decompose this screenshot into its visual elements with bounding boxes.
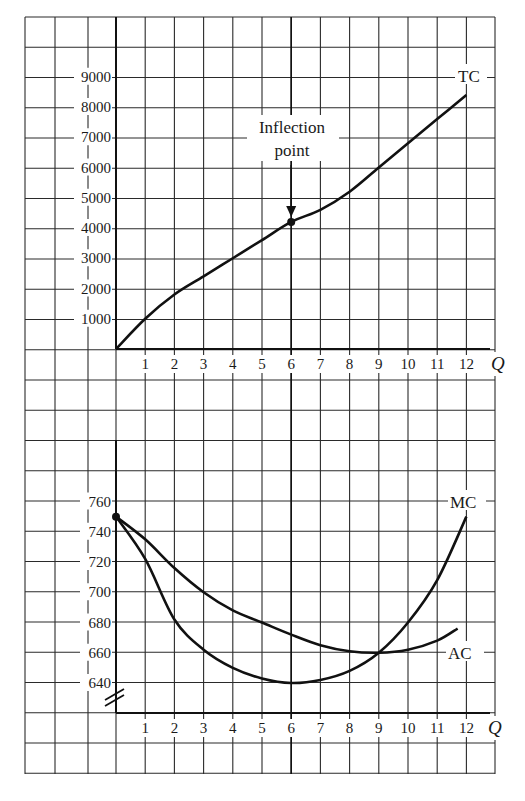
y-tick-label-bottom: 700 xyxy=(89,584,112,600)
y-tick-label-bottom: 660 xyxy=(89,645,112,661)
inflection-label-line2: point xyxy=(275,141,310,160)
y-tick-label-top: 6000 xyxy=(81,160,111,176)
x-tick-label-top: 1 xyxy=(141,356,149,372)
cost-curves-figure: 1000200030004000500060007000800090001234… xyxy=(0,0,525,801)
x-tick-label-top: 2 xyxy=(171,356,179,372)
x-tick-label-bottom: 10 xyxy=(401,720,416,736)
x-tick-label-bottom: 1 xyxy=(141,720,149,736)
x-tick-label-top: 8 xyxy=(346,356,354,372)
average-marginal-cost-chart: 640660680700720740760123456789101112 xyxy=(80,440,490,737)
x-tick-label-bottom: 12 xyxy=(459,720,474,736)
y-tick-label-bottom: 740 xyxy=(89,524,112,540)
x-tick-label-bottom: 8 xyxy=(346,720,354,736)
y-tick-label-top: 5000 xyxy=(81,190,111,206)
x-tick-label-bottom: 6 xyxy=(287,720,295,736)
y-tick-label-bottom: 720 xyxy=(89,554,112,570)
start-point-marker xyxy=(112,513,120,521)
y-tick-label-bottom: 680 xyxy=(89,615,112,631)
x-tick-label-top: 7 xyxy=(317,356,325,372)
x-tick-label-top: 5 xyxy=(258,356,266,372)
x-tick-label-bottom: 4 xyxy=(229,720,237,736)
y-tick-label-bottom: 640 xyxy=(89,675,112,691)
arrow-down-icon xyxy=(286,206,296,217)
y-tick-label-top: 3000 xyxy=(81,250,111,266)
y-tick-label-bottom: 760 xyxy=(89,494,112,510)
mc-curve-label: MC xyxy=(450,493,476,512)
y-tick-label-top: 8000 xyxy=(81,99,111,115)
x-tick-label-top: 6 xyxy=(287,356,295,372)
x-tick-label-bottom: 3 xyxy=(200,720,208,736)
inflection-point-marker xyxy=(287,218,295,226)
x-tick-label-bottom: 11 xyxy=(430,720,444,736)
x-tick-label-bottom: 7 xyxy=(317,720,325,736)
x-tick-label-top: 10 xyxy=(401,356,416,372)
y-tick-label-top: 7000 xyxy=(81,129,111,145)
x-tick-label-bottom: 2 xyxy=(171,720,179,736)
x-tick-label-top: 11 xyxy=(430,356,444,372)
x-tick-label-top: 9 xyxy=(375,356,383,372)
x-tick-label-top: 3 xyxy=(200,356,208,372)
tc-curve-label: TC xyxy=(458,67,480,86)
ac-curve xyxy=(116,517,458,653)
x-tick-label-bottom: 5 xyxy=(258,720,266,736)
x-tick-label-bottom: 9 xyxy=(375,720,383,736)
x-axis-label-top: Q xyxy=(491,353,505,374)
x-tick-label-top: 12 xyxy=(459,356,474,372)
y-tick-label-top: 2000 xyxy=(81,281,111,297)
inflection-label-line1: Inflection xyxy=(259,118,326,137)
y-tick-label-top: 4000 xyxy=(81,220,111,236)
x-axis-label-bottom: Q xyxy=(488,717,502,738)
x-tick-label-top: 4 xyxy=(229,356,237,372)
ac-curve-label: AC xyxy=(448,644,472,663)
y-tick-label-top: 9000 xyxy=(81,69,111,85)
y-tick-label-top: 1000 xyxy=(81,311,111,327)
